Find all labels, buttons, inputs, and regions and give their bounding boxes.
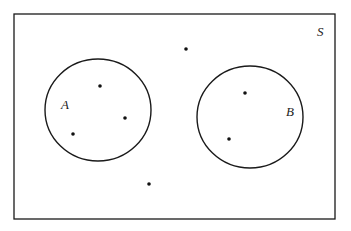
- set-a-label: A: [60, 97, 69, 112]
- venn-diagram: S A B: [0, 0, 351, 231]
- point: [98, 84, 102, 88]
- sample-points: [71, 47, 247, 186]
- point: [123, 116, 127, 120]
- point: [147, 182, 151, 186]
- universe-label: S: [317, 24, 324, 39]
- point: [243, 91, 247, 95]
- point: [227, 137, 231, 141]
- point: [184, 47, 188, 51]
- set-b-label: B: [286, 104, 294, 119]
- point: [71, 132, 75, 136]
